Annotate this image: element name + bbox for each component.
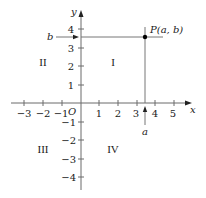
quadrant-i-label: I bbox=[111, 56, 115, 68]
y-tick-label: 3 bbox=[68, 43, 74, 54]
quadrant-iii-label: III bbox=[38, 143, 49, 155]
y-tick-label: −3 bbox=[61, 154, 76, 165]
b-label: b bbox=[47, 31, 53, 42]
x-tick-label: 3 bbox=[133, 108, 139, 119]
point-p-label: P(a, b) bbox=[149, 24, 183, 35]
quadrant-iv-label: IV bbox=[107, 143, 119, 155]
x-axis-label: x bbox=[190, 104, 196, 115]
x-tick-label: −2 bbox=[36, 108, 51, 119]
origin-label: O bbox=[68, 106, 76, 117]
x-tick-label: 1 bbox=[96, 108, 102, 119]
point-p bbox=[143, 35, 147, 39]
y-tick-label: −1 bbox=[61, 117, 76, 128]
a-arrow-icon bbox=[143, 106, 147, 112]
quadrant-ii-label: II bbox=[39, 56, 47, 68]
y-axis-label: y bbox=[70, 6, 77, 17]
y-axis-arrow-icon bbox=[79, 10, 84, 17]
y-tick-label: 2 bbox=[68, 61, 74, 72]
coordinate-plane: −3 −2 −1 1 2 3 4 5 4 3 2 1 −1 −2 −3 −4 x… bbox=[0, 0, 206, 198]
x-tick-label: −3 bbox=[17, 108, 32, 119]
y-tick-label: 1 bbox=[68, 80, 74, 91]
x-tick-label: 5 bbox=[170, 108, 176, 119]
b-arrow-icon bbox=[73, 35, 79, 39]
x-tick-label: 2 bbox=[115, 108, 121, 119]
a-label: a bbox=[142, 126, 148, 137]
y-tick-label: 4 bbox=[68, 24, 74, 35]
y-tick-label: −2 bbox=[61, 135, 76, 146]
x-tick-label: 4 bbox=[152, 108, 158, 119]
y-tick-label: −4 bbox=[61, 172, 76, 183]
